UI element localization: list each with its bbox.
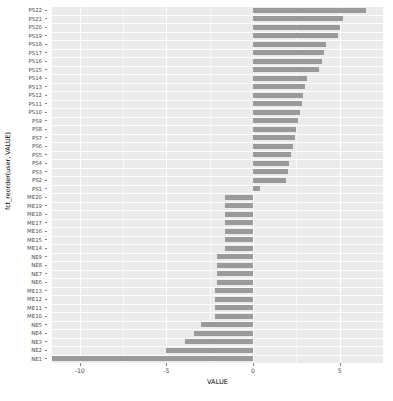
x-axis-tick-mark	[253, 363, 254, 366]
bar	[215, 305, 253, 310]
y-axis-tick-label: NE8	[31, 262, 42, 268]
y-axis-tick-label: ME20	[27, 194, 42, 200]
bar	[225, 229, 253, 234]
bar	[253, 8, 366, 13]
grid-line-horizontal	[52, 74, 383, 75]
y-axis-tick-label: ME17	[27, 220, 42, 226]
bar	[253, 178, 286, 183]
bar	[217, 280, 253, 285]
y-axis-tick-mark	[45, 341, 47, 342]
y-axis-tick-mark	[45, 103, 47, 104]
x-axis-tick-mark	[80, 363, 81, 366]
y-axis-tick-mark	[45, 69, 47, 70]
y-axis-tick-mark	[45, 27, 47, 28]
y-axis-tick-label: PS19	[28, 33, 42, 39]
y-axis-tick-label: NE1	[31, 356, 42, 362]
grid-line-horizontal	[52, 57, 383, 58]
bar	[253, 152, 291, 157]
grid-line-horizontal	[52, 261, 383, 262]
y-axis-tick-mark	[45, 61, 47, 62]
bar	[253, 76, 307, 81]
y-axis-tick-label: PS17	[28, 50, 42, 56]
y-axis-tick-mark	[45, 35, 47, 36]
y-axis-tick-mark	[45, 248, 47, 249]
grid-line-horizontal	[52, 278, 383, 279]
grid-line-horizontal	[52, 6, 383, 7]
y-axis-tick-label: ME13	[27, 288, 42, 294]
bar	[253, 127, 296, 132]
bar	[253, 118, 298, 123]
y-axis-tick-mark	[45, 78, 47, 79]
bar	[217, 271, 253, 276]
y-axis-tick-mark	[45, 205, 47, 206]
y-axis-tick-mark	[45, 18, 47, 19]
y-axis-tick-label: PS1	[32, 186, 42, 192]
grid-line-horizontal	[52, 185, 383, 186]
y-axis-tick-mark	[45, 10, 47, 11]
y-axis-tick-mark	[45, 239, 47, 240]
y-axis-tick-mark	[45, 358, 47, 359]
grid-line-horizontal	[52, 202, 383, 203]
grid-line-horizontal	[52, 355, 383, 356]
grid-line-horizontal	[52, 117, 383, 118]
grid-line-major	[340, 6, 341, 363]
y-axis-tick-label: PS11	[28, 101, 42, 107]
grid-line-horizontal	[52, 91, 383, 92]
y-axis-tick-label: NE9	[31, 254, 42, 260]
y-axis-tick-label: ME19	[27, 203, 42, 209]
bar	[253, 67, 319, 72]
bar	[253, 144, 293, 149]
y-axis-tick-label: PS22	[28, 7, 42, 13]
bar	[215, 297, 253, 302]
grid-line-major	[80, 6, 81, 363]
y-axis-tick-label: ME16	[27, 228, 42, 234]
y-axis-tick-label: PS13	[28, 84, 42, 90]
grid-line-horizontal	[52, 176, 383, 177]
y-axis-tick-mark	[45, 299, 47, 300]
bar-chart: fct_reorder(user, VALUE) PS22PS21PS20PS1…	[0, 0, 393, 401]
y-axis-tick-label: ME18	[27, 211, 42, 217]
grid-line-horizontal	[52, 346, 383, 347]
bar	[253, 84, 305, 89]
grid-line-horizontal	[52, 338, 383, 339]
y-axis-tick-label: PS18	[28, 41, 42, 47]
y-axis-tick-mark	[45, 273, 47, 274]
grid-line-horizontal	[52, 210, 383, 211]
x-axis-tick-label: -10	[75, 367, 85, 374]
x-axis-tick-label: 0	[251, 367, 255, 374]
y-axis-tick-mark	[45, 171, 47, 172]
bar	[253, 169, 288, 174]
y-axis-tick-mark	[45, 222, 47, 223]
bar	[253, 25, 340, 30]
y-axis-tick-mark	[45, 180, 47, 181]
y-axis-tick-mark	[45, 44, 47, 45]
bar	[253, 16, 343, 21]
y-axis-tick-label: PS14	[28, 75, 42, 81]
y-axis-tick-mark	[45, 112, 47, 113]
grid-line-horizontal	[52, 193, 383, 194]
grid-line-horizontal	[52, 304, 383, 305]
y-axis-tick-mark	[45, 129, 47, 130]
y-axis-tick-label: PS9	[32, 118, 42, 124]
y-axis-tick-mark	[45, 52, 47, 53]
y-axis-tick-mark	[45, 163, 47, 164]
x-axis-tick-label: -5	[163, 367, 169, 374]
y-axis-labels: PS22PS21PS20PS19PS18PS17PS16PS15PS14PS13…	[0, 6, 47, 363]
grid-line-minor	[210, 6, 211, 363]
x-axis-tick-mark	[166, 363, 167, 366]
y-axis-tick-label: PS8	[32, 126, 42, 132]
y-axis-tick-label: PS15	[28, 67, 42, 73]
grid-line-horizontal	[52, 134, 383, 135]
y-axis-tick-label: ME10	[27, 313, 42, 319]
x-axis-title: VALUE	[52, 378, 383, 386]
y-axis-tick-label: NE4	[31, 330, 42, 336]
grid-line-horizontal	[52, 108, 383, 109]
bar	[185, 339, 253, 344]
y-axis-tick-mark	[45, 154, 47, 155]
bar	[253, 161, 289, 166]
plot-panel	[52, 6, 383, 363]
y-axis-tick-label: ME12	[27, 296, 42, 302]
grid-line-horizontal	[52, 125, 383, 126]
bar	[253, 101, 302, 106]
grid-line-horizontal	[52, 329, 383, 330]
